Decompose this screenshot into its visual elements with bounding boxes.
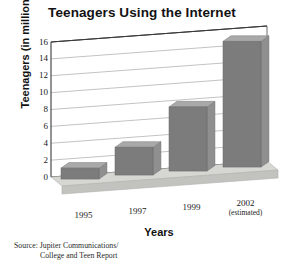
y-axis-tick-labels: 0246810121416 bbox=[22, 26, 48, 186]
y-tick-16: 16 bbox=[26, 38, 48, 47]
bar-1997 bbox=[115, 142, 161, 175]
bar-chart-svg bbox=[51, 26, 267, 178]
x-axis-title: Years bbox=[51, 226, 267, 238]
x-tick-label: 1995 bbox=[75, 210, 93, 220]
chart-title: Teenagers Using the Internet bbox=[0, 5, 284, 20]
source-note: Source: Jupiter Communications/ College … bbox=[14, 241, 118, 261]
x-tick-label: 1999 bbox=[183, 202, 201, 212]
y-tick-14: 14 bbox=[26, 54, 48, 63]
x-tick-2002: 2002(estimated) bbox=[216, 198, 276, 217]
y-tick-8: 8 bbox=[26, 105, 48, 114]
bar-1999 bbox=[169, 101, 215, 171]
y-tick-6: 6 bbox=[26, 122, 48, 131]
y-tick-2: 2 bbox=[26, 156, 48, 165]
plot-area bbox=[51, 26, 267, 178]
y-tick-0: 0 bbox=[26, 173, 48, 182]
y-tick-10: 10 bbox=[26, 88, 48, 97]
x-tick-sublabel: (estimated) bbox=[216, 208, 276, 217]
source-note-line-2: College and Teen Report bbox=[14, 251, 118, 261]
x-tick-1997: 1997 bbox=[108, 206, 168, 216]
chart-figure: Teenagers Using the Internet Teenagers (… bbox=[0, 0, 284, 265]
source-note-line-1: Source: Jupiter Communications/ bbox=[14, 241, 118, 250]
y-tick-12: 12 bbox=[26, 71, 48, 80]
bar-1995 bbox=[61, 163, 107, 180]
x-tick-label: 1997 bbox=[129, 206, 147, 216]
y-tick-4: 4 bbox=[26, 139, 48, 148]
x-tick-1999: 1999 bbox=[162, 202, 222, 212]
x-tick-1995: 1995 bbox=[54, 210, 114, 220]
x-tick-label: 2002 bbox=[237, 198, 255, 208]
bar-2002 bbox=[223, 36, 269, 167]
